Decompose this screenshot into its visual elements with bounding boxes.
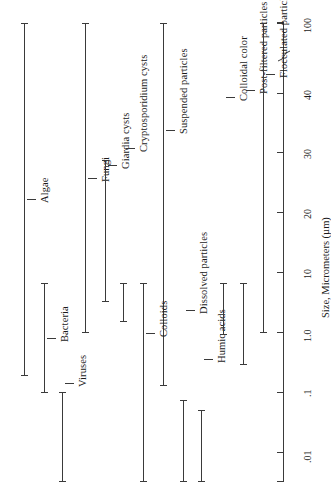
axis-ticklabel-40: 40 [302, 90, 313, 100]
label-leader-colloidal-color [226, 97, 235, 98]
label-colloids: Colloids [159, 301, 170, 337]
axis-tick-10 [277, 272, 283, 273]
label-leader-giardia [108, 165, 117, 166]
label-leader-crypto [126, 148, 135, 149]
axis-ticklabel-20: 20 [302, 209, 313, 219]
axis-tick-0_01 [277, 452, 283, 453]
label-crypto: Cryptosporidium cysts [139, 55, 150, 152]
range-bar-algae [24, 23, 25, 376]
axis-ticklabel-0_01: .01 [302, 451, 313, 464]
axis-tick-1 [277, 332, 283, 333]
label-dissolved: Dissolved particles [199, 232, 210, 314]
range-bar-colloids [143, 283, 144, 482]
label-post-filtered: Post-filtered particles [259, 2, 270, 94]
range-bar-crypto [123, 283, 124, 322]
label-colloidal-color: Colloidal color [239, 36, 250, 101]
range-bar-colloidal-color [223, 283, 224, 335]
range-bar-fungi [85, 23, 86, 333]
label-leader-post-filtered [246, 90, 255, 91]
range-bar-flocculated [263, 23, 264, 333]
label-leader-algae [27, 199, 36, 200]
axis-tick-0_1 [277, 392, 283, 393]
range-bar-bacteria [44, 283, 45, 393]
label-leader-humic [204, 359, 213, 360]
axis-ticklabel-1: 1.0 [302, 330, 313, 343]
label-leader-flocculated [266, 74, 275, 75]
label-algae: Algae [40, 177, 51, 203]
label-bacteria: Bacteria [60, 306, 71, 342]
range-bar-giardia [105, 160, 106, 302]
label-leader-fungi [88, 178, 97, 179]
range-bar-dissolved [183, 400, 184, 482]
label-leader-bacteria [47, 338, 56, 339]
axis-line [283, 22, 284, 482]
label-leader-dissolved [186, 310, 195, 311]
label-viruses: Viruses [78, 355, 89, 387]
axis-title: Size, Micrometers (µm) [320, 217, 331, 318]
range-bar-humic [201, 410, 202, 482]
axis-endcap-bottom [277, 481, 284, 482]
label-leader-suspended [166, 130, 175, 131]
axis-ticklabel-10: 10 [302, 269, 313, 279]
label-leader-colloids [146, 333, 155, 334]
axis-tick-40 [277, 93, 283, 94]
axis-ticklabel-100: 100 [302, 18, 313, 33]
axis-ticklabel-0_1: .1 [302, 390, 313, 398]
range-bar-viruses [62, 392, 63, 482]
axis-tick-20 [277, 212, 283, 213]
axis-ticklabel-30: 30 [302, 149, 313, 159]
label-flocculated: Flocculated particles [279, 0, 290, 78]
label-giardia: Giardia cysts [121, 113, 132, 169]
label-suspended: Suspended particles [179, 48, 190, 134]
label-leader-viruses [65, 383, 74, 384]
axis-tick-30 [277, 152, 283, 153]
range-bar-post-filtered [243, 283, 244, 365]
